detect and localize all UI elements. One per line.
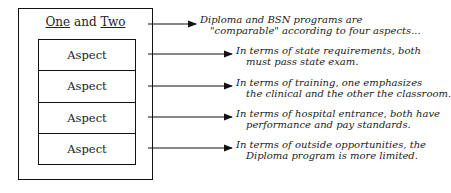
note-aspect-3: In terms of hospital entrance, both have… xyxy=(236,108,440,130)
note-aspect-4: In terms of outside opportunities, the D… xyxy=(236,139,426,161)
note-intro: Diploma and BSN programs are "comparable… xyxy=(200,14,421,36)
note-aspect-1: In terms of state requirements, both mus… xyxy=(236,45,421,67)
note-aspect-2: In terms of training, one emphasizes the… xyxy=(236,77,451,99)
